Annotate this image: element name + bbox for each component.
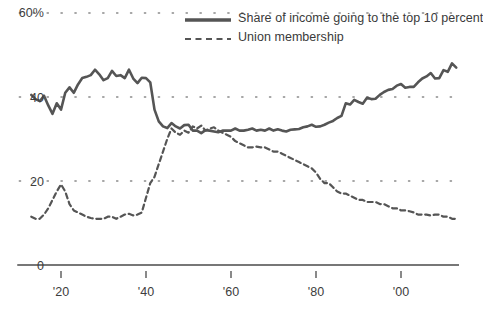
y-axis-tick-label-60: 60% bbox=[2, 6, 44, 20]
y-axis-tick-label-40: 40 bbox=[2, 91, 44, 105]
y-axis-tick-label-20: 20 bbox=[2, 175, 44, 189]
data-line-union-membership bbox=[31, 126, 456, 219]
axis-layer bbox=[17, 265, 459, 278]
x-axis-tick-label-20: '20 bbox=[41, 285, 81, 299]
x-axis-tick-label-80: '80 bbox=[296, 285, 336, 299]
legend-item-top-income-share: Share of income going to the top 10 perc… bbox=[185, 8, 455, 27]
legend-swatch-dashed-line bbox=[185, 31, 231, 43]
legend-label-top-income-share: Share of income going to the top 10 perc… bbox=[238, 11, 483, 25]
data-series-layer bbox=[31, 63, 456, 218]
x-axis-tick-label-00: '00 bbox=[381, 285, 421, 299]
x-axis-tick-label-40: '40 bbox=[126, 285, 166, 299]
chart-legend: Share of income going to the top 10 perc… bbox=[185, 8, 455, 46]
legend-item-union-membership: Union membership bbox=[185, 27, 455, 46]
legend-swatch-solid-line bbox=[185, 12, 231, 24]
legend-label-union-membership: Union membership bbox=[238, 30, 344, 44]
x-axis-tick-label-60: '60 bbox=[211, 285, 251, 299]
data-line-top-income-share bbox=[31, 63, 456, 133]
y-axis-tick-label-0: 0 bbox=[2, 259, 44, 273]
